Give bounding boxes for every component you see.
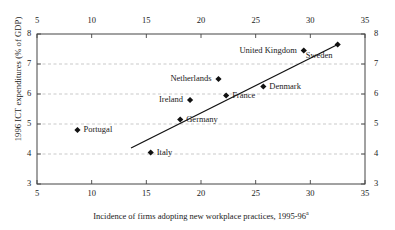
point-label-portugal: Portugal	[83, 125, 112, 134]
data-point-marker-italy	[148, 149, 154, 155]
y-tick-label-right: 5	[369, 118, 383, 128]
y-tick-label-right: 6	[369, 88, 383, 98]
data-point-marker-netherlands	[215, 76, 221, 82]
point-label-italy: Italy	[157, 148, 173, 157]
y-tick-label-left: 5	[22, 118, 36, 128]
x-tick-label-top: 5	[25, 15, 49, 25]
y-tick-label-left: 4	[22, 148, 36, 158]
x-tick-label-bottom: 25	[244, 188, 268, 198]
point-label-denmark: Denmark	[269, 82, 301, 91]
y-tick-label-left: 3	[22, 178, 36, 188]
x-tick-label-bottom: 5	[25, 188, 49, 198]
x-tick-label-top: 30	[298, 15, 322, 25]
data-point-marker-france	[223, 92, 229, 98]
scatter-chart-figure: 1996 ICT expenditures (% of GDP) Inciden…	[0, 0, 395, 230]
x-tick-label-bottom: 15	[134, 188, 158, 198]
y-tick-label-right: 4	[369, 148, 383, 158]
x-tick-label-top: 20	[189, 15, 213, 25]
data-point-marker-sweden	[335, 41, 341, 47]
x-tick-label-top: 15	[134, 15, 158, 25]
data-point-marker-denmark	[260, 83, 266, 89]
x-tick-label-top: 25	[244, 15, 268, 25]
y-tick-label-left: 8	[22, 28, 36, 38]
point-label-ireland: Ireland	[0, 95, 183, 104]
x-tick-label-bottom: 35	[353, 188, 377, 198]
point-label-france: France	[232, 91, 255, 100]
x-tick-label-bottom: 30	[298, 188, 322, 198]
point-label-united-kingdom: United Kingdom	[0, 46, 297, 55]
y-tick-label-right: 3	[369, 178, 383, 188]
y-tick-label-right: 8	[369, 28, 383, 38]
x-tick-label-top: 35	[353, 15, 377, 25]
x-tick-label-bottom: 20	[189, 188, 213, 198]
x-tick-label-top: 10	[80, 15, 104, 25]
y-tick-label-left: 7	[22, 58, 36, 68]
point-label-netherlands: Netherlands	[0, 74, 211, 83]
y-tick-label-right: 7	[369, 58, 383, 68]
x-tick-label-bottom: 10	[80, 188, 104, 198]
point-label-sweden: Sweden	[306, 51, 333, 60]
data-point-marker-portugal	[74, 127, 80, 133]
point-label-germany: Germany	[186, 115, 218, 124]
data-point-marker-ireland	[187, 97, 193, 103]
